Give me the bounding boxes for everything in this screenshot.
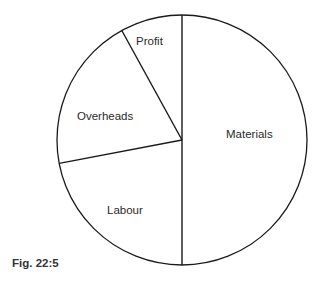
figure-caption: Fig. 22:5 xyxy=(12,257,59,269)
slice-label-labour: Labour xyxy=(107,204,143,216)
slice-label-profit: Profit xyxy=(136,35,163,47)
slice-label-overheads: Overheads xyxy=(77,110,133,122)
slice-label-materials: Materials xyxy=(226,128,273,140)
